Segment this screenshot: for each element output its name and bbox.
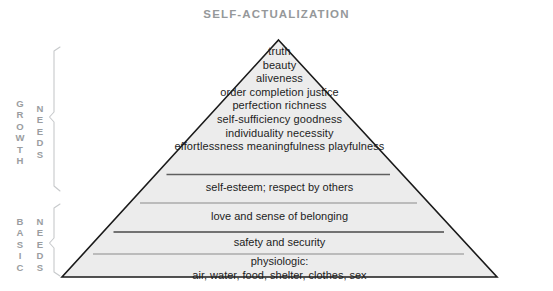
basic-letter-1: A [14, 227, 26, 238]
growth-letter-2: O [14, 121, 26, 132]
basic-label: B A S I C [14, 216, 26, 273]
growth-needs-letter-4: S [34, 149, 46, 160]
basic-needs-bracket [50, 204, 61, 276]
tier-growth-line-2: aliveness [62, 72, 497, 86]
tier-love-line-0: love and sense of belonging [62, 210, 497, 224]
growth-needs-bracket [50, 47, 61, 191]
growth-needs-letter-0: N [34, 103, 46, 114]
tier-growth-line-4: perfection richness [62, 99, 497, 113]
basic-needs-letter-1: E [34, 227, 46, 238]
basic-needs-letter-0: N [34, 216, 46, 227]
tier-growth-line-0: truth [62, 45, 497, 59]
basic-letter-3: I [14, 250, 26, 261]
growth-needs-letter-3: D [34, 137, 46, 148]
tier-physiologic-line-1: air, water, food, shelter, clothes, sex [62, 269, 497, 283]
tier-safety-line-0: safety and security [62, 236, 497, 250]
growth-letter-4: T [14, 144, 26, 155]
basic-needs-letter-3: D [34, 250, 46, 261]
diagram-canvas: SELF-ACTUALIZATION truth beauty alivenes… [0, 0, 553, 291]
growth-needs-letter-1: E [34, 114, 46, 125]
tier-growth-line-7: effortlessness meaningfulness playfulnes… [62, 140, 497, 154]
growth-label: G R O W T H [14, 98, 26, 166]
basic-letter-0: B [14, 216, 26, 227]
growth-letter-5: H [14, 155, 26, 166]
tier-growth-line-3: order completion justice [62, 86, 497, 100]
tier-safety-text: safety and security [62, 236, 497, 250]
tier-growth-line-6: individuality necessity [62, 127, 497, 141]
tier-physiologic-line-0: physiologic: [62, 255, 497, 269]
growth-needs-label: N E E D S [34, 103, 46, 160]
tier-esteem-line-0: self-esteem; respect by others [62, 181, 497, 195]
basic-letter-2: S [14, 239, 26, 250]
basic-letter-4: C [14, 262, 26, 273]
growth-letter-3: W [14, 132, 26, 143]
tier-growth-line-1: beauty [62, 59, 497, 73]
growth-needs-letter-2: E [34, 126, 46, 137]
tier-esteem-text: self-esteem; respect by others [62, 181, 497, 195]
basic-needs-letter-2: E [34, 239, 46, 250]
tier-growth-line-5: self-sufficiency goodness [62, 113, 497, 127]
tier-physiologic-text: physiologic: air, water, food, shelter, … [62, 255, 497, 282]
basic-needs-letter-4: S [34, 262, 46, 273]
tier-growth-text: truth beauty aliveness order completion … [62, 45, 497, 154]
growth-letter-0: G [14, 98, 26, 109]
basic-needs-label: N E E D S [34, 216, 46, 273]
growth-letter-1: R [14, 109, 26, 120]
tier-love-text: love and sense of belonging [62, 210, 497, 224]
